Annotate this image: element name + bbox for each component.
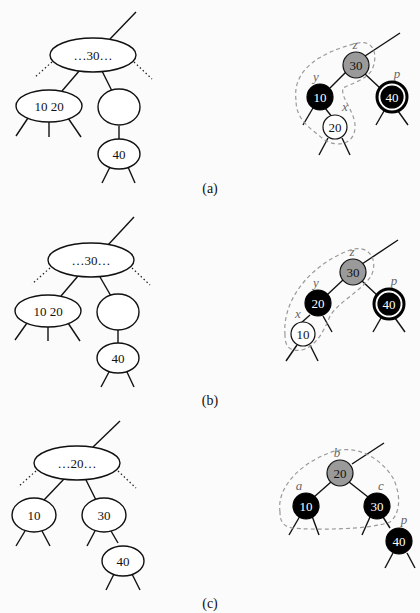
rb-node-label: y — [311, 275, 319, 290]
rb-node-label: p — [393, 66, 401, 81]
rb-node-key: 10 — [300, 499, 313, 514]
btree-left-label: 10 20 — [33, 304, 62, 319]
rb-node-label: c — [378, 478, 384, 493]
btree-root-label: …20… — [58, 456, 97, 471]
caption-c: (c) — [202, 596, 218, 612]
rb-node-key: 30 — [347, 265, 360, 280]
btree-left-label: 10 — [28, 508, 41, 523]
tree-figure: …30… 10 20 40 30 z 10 p y — [0, 0, 420, 613]
rb-node-key: 20 — [329, 120, 342, 135]
btree-right-node — [97, 294, 139, 330]
btree-right-node — [98, 89, 140, 125]
rb-node-label: p — [400, 512, 408, 527]
rb-node-label: z — [351, 37, 357, 52]
btree-root-label: …30… — [72, 253, 111, 268]
rb-node-label: x — [341, 99, 348, 114]
caption-b: (b) — [202, 393, 219, 409]
btree-left-label: 10 20 — [34, 99, 63, 114]
rb-node-key: 20 — [312, 296, 325, 311]
btree-right-child-label: 40 — [117, 554, 130, 569]
rb-node-label: a — [296, 478, 303, 493]
btree-right-label: 30 — [98, 508, 111, 523]
rb-node-key: 30 — [350, 58, 363, 73]
caption-a: (a) — [202, 181, 218, 197]
rb-node-label: y — [311, 69, 319, 84]
rb-node-key: 30 — [371, 499, 384, 514]
rb-node-label: x — [294, 306, 301, 321]
rb-node-key: 40 — [383, 297, 396, 312]
rb-node-label: z — [348, 244, 354, 259]
rb-node-label: b — [334, 445, 341, 460]
rb-node-key: 10 — [297, 327, 310, 342]
rb-node-key: 40 — [393, 534, 406, 549]
rb-node-label: p — [390, 273, 398, 288]
btree-right-child-label: 40 — [113, 147, 126, 162]
btree-root-label: …30… — [74, 48, 113, 63]
rb-node-key: 20 — [334, 466, 347, 481]
btree-right-child-label: 40 — [112, 351, 125, 366]
rb-node-key: 10 — [314, 90, 327, 105]
rb-node-key: 40 — [386, 90, 399, 105]
